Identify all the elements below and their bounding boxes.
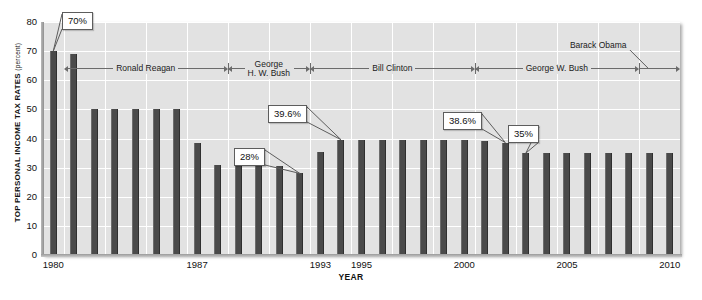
callout-386: 38.6% bbox=[443, 112, 482, 130]
callout-70: 70% bbox=[62, 12, 93, 30]
callout-396: 39.6% bbox=[268, 105, 307, 123]
callout-28: 28% bbox=[234, 148, 265, 166]
callout-35: 35% bbox=[508, 125, 539, 143]
obama-leader-line bbox=[0, 0, 702, 300]
chart-figure: 80706050403020100 1980198719931995200020… bbox=[0, 0, 702, 300]
